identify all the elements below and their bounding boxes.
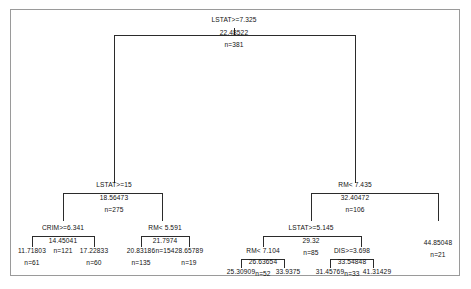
node-n4-value: 21.7974 <box>153 238 178 245</box>
node-n6-n: n=21 <box>430 252 445 259</box>
edge-drop-n3-right <box>94 236 95 247</box>
node-n1-split: LSTAT>=15 <box>96 182 131 189</box>
edge-drop-n5-left <box>263 236 264 247</box>
node-n11-n: n=52 <box>255 271 270 278</box>
node-n3-split: CRIM>=6.341 <box>42 225 84 232</box>
edge-drop-n5-right <box>361 236 362 247</box>
edge-drop-n0-left <box>114 35 115 183</box>
node-n4-split: RM< 5.591 <box>148 225 181 232</box>
node-n1-n: n=275 <box>104 207 123 214</box>
node-n0-n: n=381 <box>224 42 243 49</box>
node-n1-value: 18.56473 <box>100 195 128 202</box>
node-n8-value: 17.22833 <box>80 248 108 255</box>
node-n14-value: 33.9375 <box>276 269 301 276</box>
node-n4-n: n=154 <box>155 248 174 255</box>
node-n0-split: LSTAT>=7.325 <box>212 17 257 24</box>
node-n0-value: 22.48522 <box>220 30 248 37</box>
node-n9-value: 20.83186 <box>127 248 155 255</box>
edge-drop-n11-right <box>284 259 285 268</box>
node-n3-value: 14.45041 <box>49 238 77 245</box>
node-n3-n: n=121 <box>53 248 72 255</box>
node-n5-value: 29.32 <box>302 238 319 245</box>
node-n12-n: n=33 <box>344 271 359 278</box>
node-n8-n: n=60 <box>86 260 101 267</box>
node-n2-value: 32.40472 <box>341 195 369 202</box>
edge-drop-n2-right <box>438 193 439 221</box>
edge-drop-n1-left <box>63 193 64 221</box>
edge-drop-n4-left <box>141 236 142 247</box>
node-n11-split: RM< 7.104 <box>246 248 279 255</box>
node-n9-n: n=135 <box>131 260 150 267</box>
node-n13-value: 25.30909 <box>227 269 255 276</box>
node-n2-split: RM< 7.435 <box>338 182 371 189</box>
node-n10-n: n=19 <box>181 260 196 267</box>
edge-drop-n3-left <box>32 236 33 247</box>
node-n5-n: n=85 <box>303 250 318 257</box>
edge-drop-n1-right <box>162 193 163 221</box>
node-n12-value: 33.54848 <box>338 259 366 266</box>
node-n10-value: 28.65789 <box>175 248 203 255</box>
edge-drop-n12-left <box>330 259 331 268</box>
edge-drop-n12-right <box>373 259 374 268</box>
node-n2-n: n=106 <box>345 207 364 214</box>
node-n7-n: n=61 <box>24 260 39 267</box>
node-n12-split: DIS>=3.698 <box>334 248 370 255</box>
edge-drop-n0-right <box>355 35 356 183</box>
node-n11-value: 26.63654 <box>249 259 277 266</box>
node-n15-value: 31.45769 <box>316 269 344 276</box>
edge-drop-n2-left <box>311 193 312 221</box>
node-n7-value: 11.71803 <box>18 248 46 255</box>
decision-tree-plot: LSTAT>=7.325 22.48522 n=381 LSTAT>=15 18… <box>0 0 471 289</box>
edge-bracket-n2 <box>311 193 438 194</box>
edge-drop-n11-left <box>241 259 242 268</box>
edge-drop-n4-right <box>189 236 190 247</box>
node-n5-split: LSTAT>=5.145 <box>289 225 334 232</box>
node-n16-value: 41.31429 <box>363 269 391 276</box>
node-n6-value: 44.85048 <box>424 240 452 247</box>
